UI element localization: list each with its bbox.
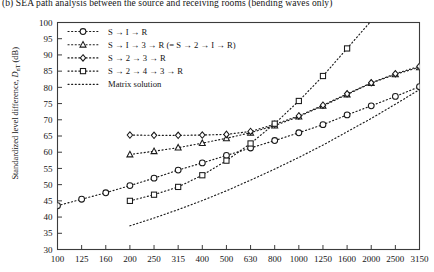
marker-diamond — [127, 132, 132, 138]
x-tick-label: 2500 — [386, 254, 405, 264]
y-tick-label: 65 — [44, 131, 54, 141]
series-1 — [55, 84, 423, 209]
legend-label: Matrix solution — [108, 79, 162, 89]
chart-svg: 3035404550556065707580859095100100125160… — [0, 0, 434, 272]
marker-square — [248, 141, 253, 146]
marker-circle — [80, 29, 86, 35]
legend-item: S → 2 → 3 → R — [68, 53, 166, 63]
marker-diamond — [224, 131, 229, 137]
marker-square — [80, 69, 85, 74]
y-tick-label: 55 — [44, 164, 54, 174]
marker-triangle — [80, 42, 86, 48]
marker-square — [224, 158, 229, 163]
marker-circle — [344, 112, 350, 118]
y-tick-label: 45 — [44, 196, 54, 206]
marker-circle — [368, 103, 374, 109]
marker-square — [176, 184, 181, 189]
marker-square — [320, 73, 325, 78]
series-line — [130, 90, 420, 226]
legend-item: S → I → 3 → R (= S → 2 → I → R) — [68, 40, 236, 50]
y-tick-label: 90 — [44, 50, 54, 60]
marker-circle — [199, 160, 205, 166]
marker-circle — [272, 138, 278, 144]
x-tick-label: 2000 — [362, 254, 381, 264]
x-tick-label: 630 — [244, 254, 258, 264]
marker-square — [272, 121, 277, 126]
marker-circle — [175, 167, 181, 173]
x-tick-label: 800 — [268, 254, 282, 264]
x-tick-label: 500 — [220, 254, 234, 264]
marker-circle — [127, 183, 133, 189]
marker-circle — [417, 84, 423, 90]
x-tick-label: 3150 — [411, 254, 430, 264]
legend-item: S → 2 → 4 → 3 → R — [68, 66, 183, 76]
marker-diamond — [200, 132, 205, 138]
marker-circle — [151, 175, 157, 181]
y-tick-label: 80 — [44, 83, 54, 93]
figure-panel: (b) SEA path analysis between the source… — [0, 0, 434, 272]
y-tick-label: 60 — [44, 147, 54, 157]
x-tick-label: 1000 — [290, 254, 309, 264]
marker-circle — [79, 196, 85, 202]
series-5 — [130, 90, 420, 226]
legend-item: S → I → R — [68, 27, 147, 37]
legend-label: S → I → 3 → R (= S → 2 → I → R) — [108, 40, 236, 50]
x-tick-label: 400 — [196, 254, 210, 264]
legend-label: S → 2 → 4 → 3 → R — [108, 66, 183, 76]
legend-label: S → 2 → 3 → R — [108, 53, 166, 63]
x-tick-label: 100 — [51, 254, 65, 264]
y-tick-label: 50 — [44, 180, 54, 190]
legend-item: Matrix solution — [68, 79, 162, 89]
y-tick-label: 40 — [44, 212, 54, 222]
marker-circle — [392, 94, 398, 100]
x-tick-label: 125 — [75, 254, 89, 264]
x-tick-label: 315 — [171, 254, 185, 264]
marker-square — [127, 198, 132, 203]
marker-square — [296, 98, 301, 103]
y-tick-label: 100 — [39, 18, 53, 28]
marker-diamond — [151, 132, 156, 138]
marker-circle — [103, 190, 109, 196]
y-tick-label: 85 — [44, 66, 54, 76]
y-tick-label: 35 — [44, 228, 54, 238]
x-tick-label: 1600 — [338, 254, 357, 264]
marker-diamond — [80, 55, 85, 61]
marker-circle — [296, 130, 302, 136]
x-tick-label: 1250 — [314, 254, 333, 264]
marker-diamond — [175, 132, 180, 138]
marker-circle — [224, 153, 230, 159]
marker-triangle — [127, 151, 133, 157]
y-tick-label: 95 — [44, 34, 54, 44]
marker-square — [345, 46, 350, 51]
marker-square — [151, 192, 156, 197]
legend-label: S → I → R — [108, 27, 147, 37]
legend: S → I → RS → I → 3 → R (= S → 2 → I → R)… — [68, 27, 236, 90]
y-tick-label: 70 — [44, 115, 54, 125]
x-tick-label: 250 — [147, 254, 161, 264]
x-tick-label: 200 — [123, 254, 137, 264]
series-line-extension — [347, 17, 375, 49]
marker-circle — [320, 122, 326, 128]
marker-square — [200, 173, 205, 178]
x-tick-label: 160 — [99, 254, 113, 264]
y-tick-label: 75 — [44, 99, 54, 109]
plot-area-wrapper: 3035404550556065707580859095100100125160… — [0, 0, 434, 272]
marker-circle — [55, 203, 61, 209]
series-line — [58, 87, 420, 206]
